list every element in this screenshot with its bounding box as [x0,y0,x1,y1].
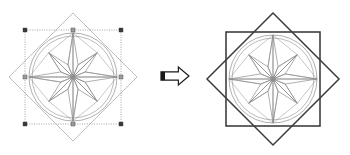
rose-point-facet [273,79,278,123]
right-figure [0,0,350,155]
rose-web-line [273,35,297,55]
rose-web-line [229,55,249,79]
rose-web-line [297,55,317,79]
rose-web-line [297,79,317,103]
rose-point-facet [229,79,273,84]
rose-web-line [249,35,273,55]
rose-web-line [229,79,249,103]
rose-web-line [268,35,273,67]
rose-point-facet [273,74,317,79]
rose-web-line [249,103,273,123]
illustration-canvas: Vector drawing editor illustration: a co… [0,0,350,155]
right-compass-rose [229,35,317,123]
rose-web-line [273,103,297,123]
